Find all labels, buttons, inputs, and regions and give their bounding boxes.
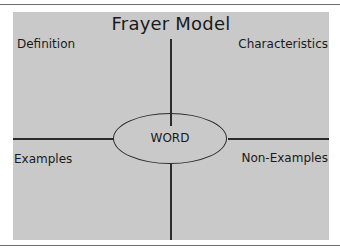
frayer-model-panel: Frayer Model Definition Characteristics … xyxy=(13,12,329,240)
center-word: WORD xyxy=(151,131,190,145)
quadrant-label-examples: Examples xyxy=(14,152,72,166)
horizontal-divider-left xyxy=(13,138,114,140)
top-rule xyxy=(0,4,340,5)
vertical-divider-lower xyxy=(170,164,172,240)
center-word-ellipse: WORD xyxy=(113,113,227,164)
quadrant-label-characteristics: Characteristics xyxy=(238,37,328,51)
horizontal-divider-right xyxy=(228,138,329,140)
diagram-title: Frayer Model xyxy=(13,13,329,34)
quadrant-label-non-examples: Non-Examples xyxy=(241,151,328,165)
quadrant-label-definition: Definition xyxy=(17,37,75,51)
bottom-rule xyxy=(0,245,340,246)
